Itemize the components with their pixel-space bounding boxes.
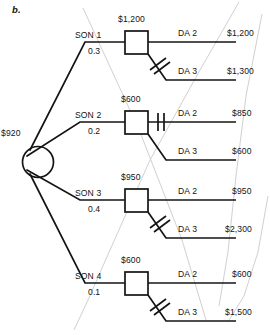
decision-node-value-son-3: $950: [121, 172, 141, 182]
alt-label-son2-da2: DA 2: [178, 108, 197, 118]
branch-son-1: [30, 42, 125, 150]
alt-label-son4-da3: DA 3: [178, 307, 197, 317]
decision-node-son-1: [125, 31, 148, 54]
payoff-son4-da3: $1,500: [225, 307, 252, 317]
alt-label-son3-da3: DA 3: [178, 224, 197, 234]
state-label-son-3: SON 3: [75, 188, 101, 198]
payoff-son1-da3: $1,300: [227, 66, 254, 76]
decision-tree-canvas: [0, 0, 270, 335]
decision-node-value-son-4: $600: [121, 255, 141, 265]
state-label-son-1: SON 1: [75, 30, 101, 40]
root-value-label: $920: [1, 128, 21, 138]
chance-node-circle: [23, 147, 54, 178]
alt-label-son2-da3: DA 3: [178, 146, 197, 156]
alt-label-son3-da2: DA 2: [178, 186, 197, 196]
alt-label-son4-da2: DA 2: [178, 269, 197, 279]
payoff-son2-da3: $600: [232, 146, 252, 156]
payoff-son3-da2: $950: [232, 186, 252, 196]
payoff-son2-da2: $850: [232, 108, 252, 118]
state-label-son-4: SON 4: [75, 271, 101, 281]
decision-node-value-son-2: $600: [121, 94, 141, 104]
state-label-son-2: SON 2: [75, 110, 101, 120]
payoff-son4-da2: $600: [232, 269, 252, 279]
alt-label-son1-da3: DA 3: [178, 66, 197, 76]
decision-node-value-son-1: $1,200: [118, 14, 145, 24]
probability-son-1: 0.3: [88, 46, 100, 56]
payoff-son1-da2: $1,200: [227, 28, 254, 38]
scan-bleedthrough-lines: [74, 2, 268, 330]
probability-son-4: 0.1: [88, 287, 100, 297]
payoff-son3-da3: $2,300: [225, 224, 252, 234]
probability-son-3: 0.4: [88, 204, 100, 214]
alt-label-son1-da2: DA 2: [178, 28, 197, 38]
figure-label: b.: [12, 4, 21, 15]
decision-node-son-2: [125, 111, 148, 134]
decision-node-son-4: [125, 272, 148, 295]
probability-son-2: 0.2: [88, 126, 100, 136]
decision-node-son-3: [125, 189, 148, 212]
